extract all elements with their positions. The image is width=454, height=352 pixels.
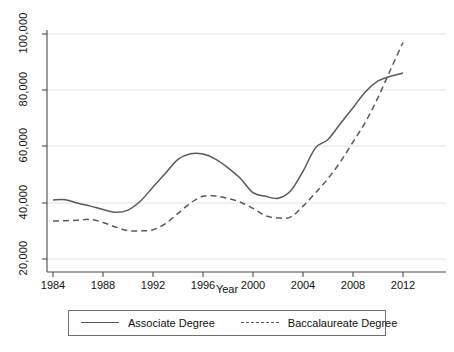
legend-label-associate-degree: Associate Degree xyxy=(128,317,215,329)
legend-key-solid-line-icon xyxy=(81,318,119,328)
legend-label-baccalaureate-degree: Baccalaureate Degree xyxy=(288,317,397,329)
gridlines xyxy=(47,34,446,259)
plot-area xyxy=(0,0,454,352)
legend-entry-associate-degree: Associate Degree xyxy=(81,311,215,335)
y-tick-label-40000: 40,000 xyxy=(17,170,29,234)
y-tick-label-100000: 100,000 xyxy=(17,0,29,69)
line-chart: 20,000 40,000 60,000 80,000 100,000 1984… xyxy=(0,0,454,352)
x-axis-title: Year xyxy=(0,283,454,295)
y-tick-label-60000: 60,000 xyxy=(17,113,29,177)
y-tick-marks xyxy=(42,34,47,259)
series-line-associate-degree xyxy=(53,73,403,212)
y-tick-label-20000: 20,000 xyxy=(17,226,29,290)
legend-key-dashed-line-icon xyxy=(241,318,279,328)
legend: Associate Degree Baccalaureate Degree xyxy=(68,310,386,336)
legend-entry-baccalaureate-degree: Baccalaureate Degree xyxy=(241,311,397,335)
x-tick-marks xyxy=(53,272,403,277)
